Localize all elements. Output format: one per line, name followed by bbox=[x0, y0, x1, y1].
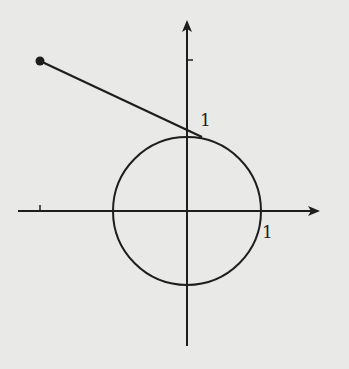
y-axis-label-one: 1 bbox=[200, 112, 211, 129]
tangent-segment bbox=[40, 61, 202, 137]
x-axis-label-one: 1 bbox=[262, 224, 273, 241]
diagram-canvas: 1 1 bbox=[0, 0, 349, 369]
external-point bbox=[36, 57, 45, 66]
coordinate-diagram bbox=[0, 0, 349, 369]
